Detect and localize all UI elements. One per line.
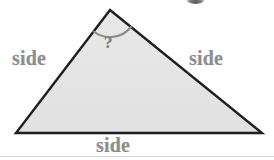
label-unknown-angle: ? bbox=[104, 33, 113, 53]
label-bottom-side: side bbox=[96, 134, 130, 157]
triangle-shape bbox=[16, 10, 262, 133]
label-right-side: side bbox=[189, 47, 223, 70]
triangle-diagram-svg bbox=[0, 0, 274, 160]
label-left-side: side bbox=[12, 47, 46, 70]
triangle-figure: side side side ? bbox=[0, 0, 274, 160]
scan-artifact-baseline bbox=[0, 156, 274, 157]
